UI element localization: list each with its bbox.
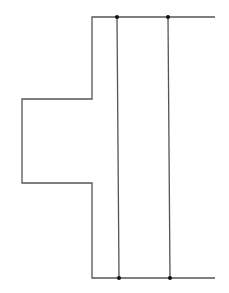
line-diagram	[0, 0, 229, 293]
junction-node-4	[168, 276, 172, 280]
junction-node-2	[166, 15, 170, 19]
vertical-line-1	[117, 17, 119, 278]
junction-nodes	[115, 15, 172, 280]
vertical-line-2	[168, 17, 170, 278]
junction-node-1	[115, 15, 119, 19]
vertical-lines	[117, 17, 170, 278]
junction-node-3	[117, 276, 121, 280]
